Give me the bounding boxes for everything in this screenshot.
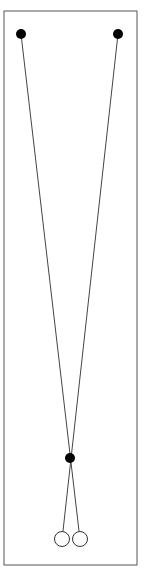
left-bob-circle xyxy=(55,532,70,547)
top-right-pivot-dot xyxy=(113,29,123,39)
pendulum-diagram xyxy=(0,0,150,572)
diagram-frame xyxy=(4,11,137,565)
top-left-pivot-dot xyxy=(16,29,26,39)
crossing-point-dot xyxy=(65,453,75,463)
right-bob-circle xyxy=(73,532,88,547)
